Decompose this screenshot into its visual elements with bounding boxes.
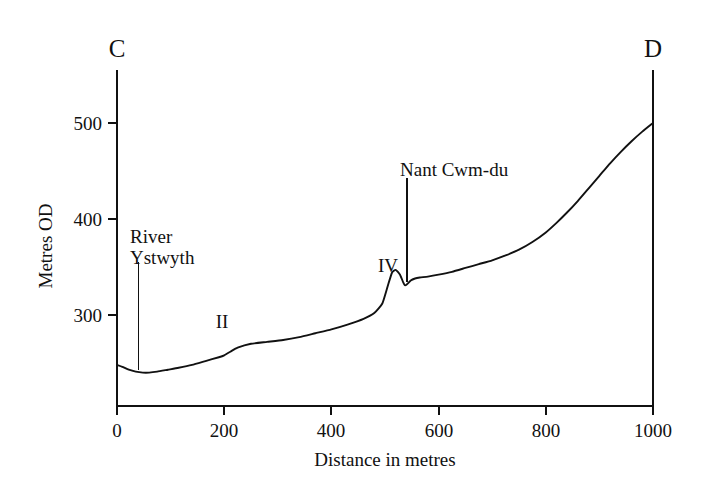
y-tick-marks <box>108 123 117 315</box>
endpoint-label-c: C <box>109 35 126 62</box>
river-ystwyth-label-line2: Ystwyth <box>130 247 195 268</box>
river-ystwyth-label-line1: River <box>130 226 173 247</box>
x-tick-label-0: 0 <box>112 420 122 441</box>
x-tick-marks <box>117 406 653 415</box>
terrace-label-iv: IV <box>378 255 398 276</box>
endpoint-label-d: D <box>644 35 662 62</box>
y-axis-title: Metres OD <box>35 204 56 289</box>
y-tick-label-300: 300 <box>74 305 103 326</box>
ground-surface-profile-curve <box>117 123 653 373</box>
x-tick-label-600: 600 <box>425 420 454 441</box>
x-tick-label-800: 800 <box>532 420 561 441</box>
y-tick-label-400: 400 <box>74 209 103 230</box>
x-tick-label-400: 400 <box>317 420 346 441</box>
chart-figure: 500 400 300 0 200 400 600 800 1000 Dista… <box>0 0 704 490</box>
y-tick-label-500: 500 <box>74 113 103 134</box>
terrace-label-ii: II <box>216 311 229 332</box>
x-axis-title: Distance in metres <box>314 449 455 470</box>
nant-cwm-du-label: Nant Cwm-du <box>400 159 509 180</box>
x-tick-label-1000: 1000 <box>634 420 672 441</box>
x-tick-label-200: 200 <box>210 420 239 441</box>
profile-chart-svg: 500 400 300 0 200 400 600 800 1000 Dista… <box>0 0 704 490</box>
